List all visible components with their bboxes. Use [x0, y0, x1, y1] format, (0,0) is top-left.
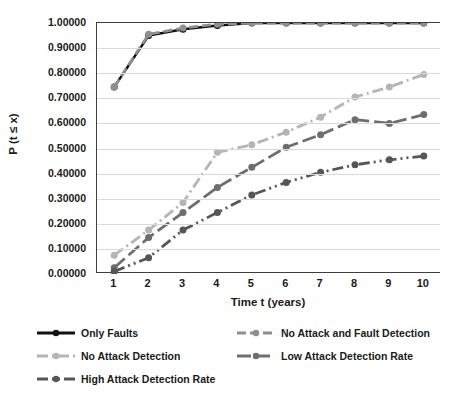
data-point: [248, 191, 255, 198]
data-point: [145, 254, 152, 261]
legend-item[interactable]: Low Attack Detection Rate: [236, 348, 413, 364]
data-point: [111, 252, 118, 259]
data-point: [420, 23, 427, 27]
data-point: [420, 153, 427, 160]
data-point: [386, 156, 393, 163]
data-point: [386, 84, 393, 91]
y-tick-label: 0.30000: [24, 192, 86, 204]
data-point: [352, 161, 359, 168]
data-point: [420, 71, 427, 78]
y-tick-label: 0.20000: [24, 217, 86, 229]
x-tick-label: 8: [337, 277, 371, 289]
legend-label: No Attack and Fault Detection: [281, 327, 430, 339]
x-tick-label: 9: [371, 277, 405, 289]
x-tick-label: 2: [131, 277, 165, 289]
chart-legend: Only FaultsNo Attack and Fault Detection…: [36, 325, 446, 395]
x-tick-label: 3: [165, 277, 199, 289]
data-point: [180, 199, 187, 206]
gridline: [97, 199, 440, 200]
data-point: [352, 116, 359, 123]
gridline: [97, 224, 440, 225]
y-tick-label: 0.40000: [24, 167, 86, 179]
legend-item[interactable]: No Attack and Fault Detection: [236, 325, 430, 341]
chart-figure: P (t ≤ x) 1.000000.900000.800000.700000.…: [0, 0, 466, 398]
x-tick-label: 7: [303, 277, 337, 289]
legend-item[interactable]: Only Faults: [36, 325, 138, 341]
data-point: [352, 23, 359, 27]
data-point: [145, 234, 152, 241]
x-tick-label: 6: [268, 277, 302, 289]
data-point: [386, 23, 393, 27]
legend-swatch-icon: [236, 349, 276, 363]
y-tick-label: 0.00000: [24, 267, 86, 279]
data-point: [145, 227, 152, 234]
x-tick-label: 1: [96, 277, 130, 289]
x-tick-label: 10: [406, 277, 440, 289]
data-point: [145, 31, 152, 38]
y-axis-tick-labels: 1.000000.900000.800000.700000.600000.500…: [24, 22, 86, 273]
series-line: [114, 115, 424, 268]
data-point: [283, 129, 290, 136]
gridline: [97, 149, 440, 150]
legend-label: Only Faults: [81, 327, 138, 339]
data-point: [214, 149, 221, 156]
y-tick-label: 1.00000: [24, 16, 86, 28]
y-tick-label: 0.50000: [24, 142, 86, 154]
data-point: [420, 111, 427, 118]
y-tick-label: 0.10000: [24, 242, 86, 254]
x-tick-label: 5: [234, 277, 268, 289]
legend-label: No Attack Detection: [81, 350, 180, 362]
legend-swatch-icon: [36, 349, 76, 363]
legend-label: Low Attack Detection Rate: [281, 350, 413, 362]
plot-area: [96, 22, 440, 273]
x-axis-title: Time t (years): [96, 296, 440, 308]
series-1: [111, 23, 428, 91]
data-point: [180, 25, 187, 32]
data-point: [248, 23, 255, 27]
data-point: [317, 114, 324, 121]
legend-swatch-icon: [236, 326, 276, 340]
series-4: [111, 153, 428, 274]
x-axis-tick-labels: 12345678910: [96, 277, 440, 295]
data-point: [317, 23, 324, 27]
gridline: [97, 48, 440, 49]
gridline: [97, 123, 440, 124]
data-point: [283, 23, 290, 27]
data-point: [317, 169, 324, 176]
data-point: [248, 141, 255, 148]
y-tick-label: 0.60000: [24, 116, 86, 128]
gridline: [97, 98, 440, 99]
gridline: [97, 249, 440, 250]
y-tick-label: 0.80000: [24, 66, 86, 78]
data-point: [248, 164, 255, 171]
legend-label: High Attack Detection Rate: [81, 373, 215, 385]
y-tick-label: 0.70000: [24, 91, 86, 103]
data-point: [214, 209, 221, 216]
data-point: [180, 209, 187, 216]
legend-item[interactable]: No Attack Detection: [36, 348, 180, 364]
legend-swatch-icon: [36, 326, 76, 340]
series-3: [111, 111, 428, 271]
series-line: [114, 23, 424, 87]
data-point: [317, 131, 324, 138]
data-point: [283, 179, 290, 186]
series-canvas: [97, 23, 440, 272]
data-point: [352, 94, 359, 101]
y-axis-title: P (t ≤ x): [7, 89, 19, 179]
data-point: [283, 144, 290, 151]
data-point: [111, 84, 118, 91]
data-point: [214, 184, 221, 191]
gridline: [97, 73, 440, 74]
legend-item[interactable]: High Attack Detection Rate: [36, 371, 215, 387]
y-tick-label: 0.90000: [24, 41, 86, 53]
x-tick-label: 4: [199, 277, 233, 289]
data-point: [180, 227, 187, 234]
gridline: [97, 174, 440, 175]
legend-swatch-icon: [36, 372, 76, 386]
